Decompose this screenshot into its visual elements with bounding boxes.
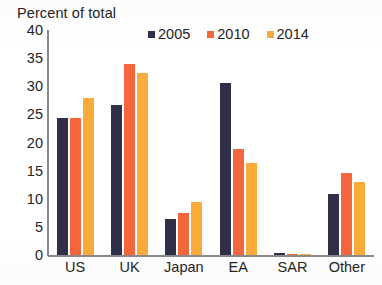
bar-other-2005 xyxy=(328,194,339,255)
bar-sar-2010 xyxy=(287,254,298,255)
bar-us-2010 xyxy=(70,118,81,255)
x-axis-baseline xyxy=(48,255,374,257)
bar-japan-2014 xyxy=(191,202,202,255)
bar-group xyxy=(102,30,156,255)
y-tick-label: 10 xyxy=(3,191,43,207)
bar-group xyxy=(265,30,319,255)
bar-chart: Percent of total 2005 2010 2014 40353025… xyxy=(0,0,382,285)
bar-group xyxy=(320,30,374,255)
x-tick-label-japan: Japan xyxy=(164,259,204,275)
y-tick-label: 5 xyxy=(3,219,43,235)
x-tick-label-us: US xyxy=(65,259,85,275)
bar-sar-2005 xyxy=(274,253,285,255)
bar-group xyxy=(211,30,265,255)
x-tick-label-other: Other xyxy=(329,259,365,275)
y-tick-label: 0 xyxy=(3,247,43,263)
bar-sar-2014 xyxy=(300,254,311,255)
x-tick-label-uk: UK xyxy=(119,259,139,275)
y-tick-label: 30 xyxy=(3,78,43,94)
bar-uk-2005 xyxy=(111,105,122,255)
bar-other-2010 xyxy=(341,173,352,255)
bar-ea-2005 xyxy=(220,83,231,255)
bar-ea-2014 xyxy=(246,163,257,255)
bar-uk-2010 xyxy=(124,64,135,255)
y-tick-label: 25 xyxy=(3,106,43,122)
bar-uk-2014 xyxy=(137,73,148,255)
y-tick-label: 35 xyxy=(3,50,43,66)
x-tick-label-sar: SAR xyxy=(278,259,308,275)
bar-other-2014 xyxy=(354,182,365,255)
bar-japan-2005 xyxy=(165,219,176,255)
y-tick-label: 15 xyxy=(3,163,43,179)
y-tick-label: 20 xyxy=(3,135,43,151)
y-tick-label: 40 xyxy=(3,22,43,38)
bar-japan-2010 xyxy=(178,213,189,255)
bar-ea-2010 xyxy=(233,149,244,255)
bar-group xyxy=(48,30,102,255)
bar-group xyxy=(157,30,211,255)
bar-us-2005 xyxy=(57,118,68,255)
y-axis-tick-labels: 4035302520151050 xyxy=(0,0,43,285)
x-tick-label-ea: EA xyxy=(228,259,247,275)
bars-layer xyxy=(48,30,374,255)
bar-us-2014 xyxy=(83,98,94,255)
